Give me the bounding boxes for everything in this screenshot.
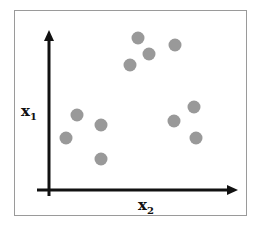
y-axis — [44, 30, 54, 196]
data-point — [169, 39, 182, 52]
data-point — [143, 48, 156, 61]
x-axis-label: x2 — [138, 196, 154, 216]
data-point — [132, 32, 145, 45]
data-point — [124, 59, 137, 72]
data-point — [71, 109, 84, 122]
data-point — [95, 153, 108, 166]
x-axis — [37, 185, 238, 195]
data-point — [188, 101, 201, 114]
data-point — [60, 132, 73, 145]
scatter-plot: x1 x2 — [0, 0, 258, 228]
data-point — [95, 119, 108, 132]
data-point — [168, 115, 181, 128]
data-point — [190, 132, 203, 145]
data-points — [60, 32, 203, 166]
y-axis-label: x1 — [21, 102, 37, 122]
